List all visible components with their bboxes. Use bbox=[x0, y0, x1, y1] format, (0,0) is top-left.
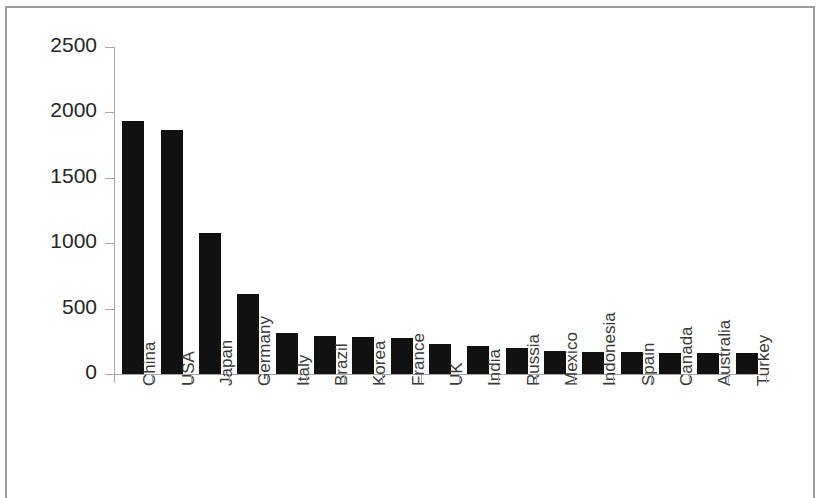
x-axis-tick-label: Australia bbox=[715, 320, 735, 386]
x-axis-tick-mark bbox=[152, 375, 153, 383]
x-axis-tick-mark bbox=[651, 375, 652, 383]
y-axis-tick-mark bbox=[105, 243, 114, 244]
x-axis-tick-label: India bbox=[485, 349, 505, 386]
x-axis-tick-mark bbox=[459, 375, 460, 383]
x-axis-tick-label: Canada bbox=[677, 326, 697, 386]
x-axis-tick-label: France bbox=[409, 333, 429, 386]
x-axis-tick-mark bbox=[114, 375, 115, 383]
y-axis-tick-label: 1500 bbox=[9, 164, 97, 188]
x-axis-tick-label: Italy bbox=[294, 355, 314, 386]
x-axis-tick-mark bbox=[498, 375, 499, 383]
y-axis-tick-mark bbox=[105, 309, 114, 310]
y-axis-tick-label: 0 bbox=[9, 360, 97, 384]
x-axis-tick-mark bbox=[766, 375, 767, 383]
x-axis-tick-label: Germany bbox=[255, 316, 275, 386]
y-axis-tick-label: 2500 bbox=[9, 33, 97, 57]
x-axis-tick-label: Mexico bbox=[562, 332, 582, 386]
x-axis-tick-mark bbox=[421, 375, 422, 383]
x-axis-tick-label: USA bbox=[179, 351, 199, 386]
x-axis-line bbox=[114, 374, 766, 375]
x-axis-tick-mark bbox=[382, 375, 383, 383]
x-axis-tick-label: China bbox=[140, 342, 160, 386]
y-axis-tick-mark bbox=[105, 47, 114, 48]
x-axis-tick-label: Brazil bbox=[332, 343, 352, 386]
bar bbox=[161, 130, 183, 374]
x-axis-tick-label: UK bbox=[447, 362, 467, 386]
x-axis-tick-mark bbox=[229, 375, 230, 383]
x-axis-tick-label: Turkey bbox=[754, 335, 774, 386]
x-axis-tick-mark bbox=[191, 375, 192, 383]
x-axis-tick-mark bbox=[536, 375, 537, 383]
x-axis-tick-mark bbox=[613, 375, 614, 383]
y-axis-tick-label: 500 bbox=[9, 295, 97, 319]
x-axis-tick-mark bbox=[344, 375, 345, 383]
x-axis-tick-mark bbox=[574, 375, 575, 383]
bar bbox=[122, 121, 144, 374]
x-axis-tick-label: Korea bbox=[370, 341, 390, 386]
x-axis-tick-mark bbox=[728, 375, 729, 383]
x-axis-tick-label: Russia bbox=[524, 334, 544, 386]
x-axis-tick-label: Japan bbox=[217, 340, 237, 386]
x-axis-tick-label: Spain bbox=[639, 343, 659, 386]
y-axis-tick-label: 2000 bbox=[9, 98, 97, 122]
x-axis-tick-mark bbox=[689, 375, 690, 383]
y-axis-tick-label: 1000 bbox=[9, 229, 97, 253]
y-axis-line bbox=[114, 47, 115, 375]
x-axis-tick-mark bbox=[306, 375, 307, 383]
x-axis-tick-label: Indonesia bbox=[600, 312, 620, 386]
y-axis-tick-mark bbox=[105, 374, 114, 375]
y-axis-tick-mark bbox=[105, 112, 114, 113]
x-axis-tick-mark bbox=[267, 375, 268, 383]
y-axis-tick-mark bbox=[105, 178, 114, 179]
